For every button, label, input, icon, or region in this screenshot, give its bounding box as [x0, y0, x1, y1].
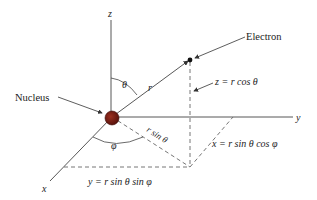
z-axis-label: z	[107, 8, 112, 19]
x-axis-label: x	[41, 183, 47, 194]
r-sin-theta-label: r sin θ	[145, 124, 170, 145]
x-axis	[50, 117, 112, 181]
theta-label: θ	[122, 79, 127, 90]
electron-pointer-arrow	[195, 37, 245, 58]
phi-arc	[93, 137, 143, 144]
nucleus	[105, 111, 119, 125]
y-equation: y = r sin θ sin φ	[87, 176, 152, 187]
electron-label: Electron	[246, 31, 282, 42]
r-label: r	[148, 82, 152, 93]
y-axis-label: y	[295, 112, 301, 123]
x-equation: x = r sin θ cos φ	[211, 138, 278, 149]
nucleus-pointer-arrow	[58, 97, 102, 113]
spherical-coordinate-diagram: z y x Electron Nucleus θ r φ r sin θ z =…	[0, 0, 317, 200]
phi-label: φ	[111, 140, 117, 151]
electron-dot	[188, 58, 193, 63]
z-eq-pointer-arrow	[194, 83, 213, 91]
z-equation: z = r cos θ	[214, 76, 258, 87]
nucleus-label: Nucleus	[15, 92, 49, 103]
